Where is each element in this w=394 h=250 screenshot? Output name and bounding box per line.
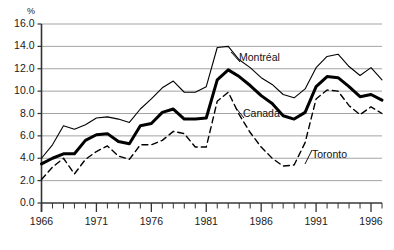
x-axis-tick-label: 1996	[345, 215, 394, 227]
y-axis-tick-label: 8.0	[0, 107, 35, 119]
y-axis-tick-label: 12.0	[0, 62, 35, 74]
series-label-canada: Canada	[243, 107, 280, 119]
y-axis-tick-label: 2.0	[0, 174, 35, 186]
series-label-montral: Montréal	[239, 51, 280, 63]
y-axis-tick-label: 4.0	[0, 151, 35, 163]
annotation-leader-line	[305, 150, 312, 164]
y-axis-tick-label: 10.0	[0, 84, 35, 96]
y-axis-tick-label: 0.0	[0, 196, 35, 208]
x-axis-tick-label: 1986	[235, 215, 287, 227]
x-axis-tick-label: 1991	[290, 215, 342, 227]
y-axis-tick-label: 14.0	[0, 39, 35, 51]
x-axis-tick-label: 1971	[70, 215, 122, 227]
unemployment-rate-line-chart: % 0.02.04.06.08.010.012.014.016.0 196619…	[0, 0, 394, 250]
series-label-toronto: Toronto	[312, 148, 347, 160]
x-axis-tick-label: 1976	[125, 215, 177, 227]
y-axis-tick-label: 16.0	[0, 17, 35, 29]
y-axis-tick-label: 6.0	[0, 129, 35, 141]
chart-plot-area	[0, 0, 394, 250]
x-axis-tick-label: 1966	[16, 215, 68, 227]
x-axis-tick-label: 1981	[180, 215, 232, 227]
